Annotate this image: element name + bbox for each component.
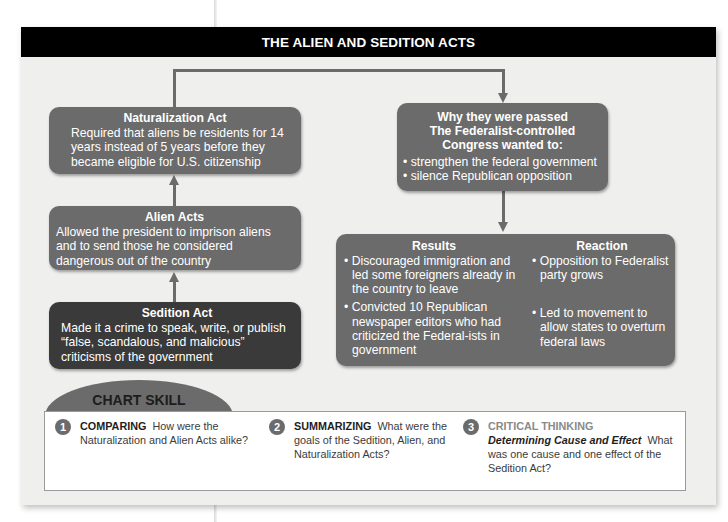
arrow-up-icon [169, 175, 179, 185]
naturalization-act-body: Required that aliens be residents for 14… [71, 126, 291, 170]
alien-acts-body: Allowed the president to imprison aliens… [56, 225, 293, 269]
page-gutter-bottom [214, 505, 217, 522]
question-keyword: SUMMARIZING [294, 420, 371, 432]
list-item: Led to movement to allow states to overt… [532, 306, 672, 349]
alien-acts-box: Alien Acts Allowed the president to impr… [49, 206, 301, 270]
list-item: strengthen the federal government [403, 156, 602, 170]
results-heading: Results [344, 239, 524, 254]
results-column: Results Discouraged immigration and led … [344, 239, 524, 358]
reaction-heading: Reaction [532, 239, 672, 254]
connector-alien-to-naturalization [173, 184, 176, 206]
chart-skill-questions: 1 COMPARING How were the Naturalization … [44, 411, 686, 491]
connector-vertical-right [502, 69, 505, 95]
naturalization-act-heading: Naturalization Act [59, 111, 291, 126]
why-passed-subheading: The Federalist-controlled Congress wante… [403, 124, 602, 152]
reaction-column: Reaction Opposition to Federalist party … [532, 239, 672, 349]
diagram-title: THE ALIEN AND SEDITION ACTS [21, 27, 716, 57]
number-2-icon: 2 [269, 419, 285, 435]
arrow-up-icon [169, 272, 179, 282]
number-1-icon: 1 [55, 419, 71, 435]
sedition-act-box: Sedition Act Made it a crime to speak, w… [49, 302, 301, 369]
connector-vertical-left [173, 69, 176, 107]
question-keyword: COMPARING [80, 420, 146, 432]
question-keyword: CRITICAL THINKING [488, 419, 678, 433]
results-reaction-box: Results Discouraged immigration and led … [336, 234, 675, 366]
arrow-down-icon [498, 222, 508, 232]
list-item: Convicted 10 Republican newspaper editor… [344, 300, 524, 357]
question-2: 2 SUMMARIZING What were the goals of the… [269, 419, 469, 461]
question-subkeyword: Determining Cause and Effect [488, 434, 641, 446]
chart-skill-label: CHART SKILL [92, 392, 185, 408]
connector-why-to-results [502, 191, 505, 224]
why-passed-box: Why they were passed The Federalist-cont… [397, 103, 608, 191]
sedition-act-body: Made it a crime to speak, write, or publ… [61, 321, 293, 365]
arrow-down-icon [498, 93, 508, 103]
question-1: 1 COMPARING How were the Naturalization … [55, 419, 255, 447]
question-3: 3 CRITICAL THINKING Determining Cause an… [463, 419, 678, 475]
number-3-icon: 3 [463, 419, 479, 435]
connector-horizontal-top [173, 69, 505, 72]
connector-sedition-to-alien [173, 281, 176, 302]
results-list: Discouraged immigration and led some for… [344, 254, 524, 358]
reaction-list: Opposition to Federalist party grows Led… [532, 254, 672, 349]
alien-acts-heading: Alien Acts [56, 210, 293, 225]
list-item: Opposition to Federalist party grows [532, 254, 672, 283]
why-passed-heading: Why they were passed [403, 110, 602, 124]
list-item: silence Republican opposition [403, 170, 602, 184]
why-passed-list: strengthen the federal government silenc… [403, 156, 602, 183]
sedition-act-heading: Sedition Act [61, 306, 293, 321]
list-item: Discouraged immigration and led some for… [344, 254, 524, 297]
page-gutter-top [214, 0, 217, 30]
naturalization-act-box: Naturalization Act Required that aliens … [49, 107, 301, 174]
